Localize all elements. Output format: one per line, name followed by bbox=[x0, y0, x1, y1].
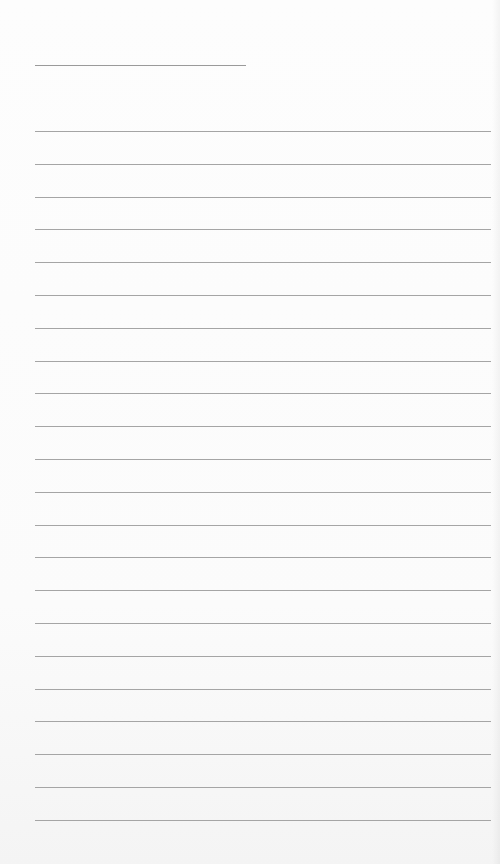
header-title-line bbox=[35, 65, 246, 66]
ruled-line bbox=[35, 787, 491, 788]
ruled-line bbox=[35, 295, 491, 296]
ruled-line bbox=[35, 426, 491, 427]
ruled-line bbox=[35, 656, 491, 657]
ruled-line bbox=[35, 525, 491, 526]
ruled-line bbox=[35, 623, 491, 624]
ruled-line bbox=[35, 229, 491, 230]
ruled-line bbox=[35, 262, 491, 263]
page-edge-shadow bbox=[492, 0, 500, 864]
ruled-line bbox=[35, 197, 491, 198]
ruled-line bbox=[35, 393, 491, 394]
ruled-line bbox=[35, 164, 491, 165]
ruled-line bbox=[35, 459, 491, 460]
ruled-line bbox=[35, 590, 491, 591]
ruled-line bbox=[35, 820, 491, 821]
ruled-line bbox=[35, 721, 491, 722]
ruled-line bbox=[35, 689, 491, 690]
ruled-line bbox=[35, 557, 491, 558]
ruled-line bbox=[35, 754, 491, 755]
ruled-line bbox=[35, 361, 491, 362]
ruled-line bbox=[35, 131, 491, 132]
ruled-line bbox=[35, 492, 491, 493]
ruled-line bbox=[35, 328, 491, 329]
lined-paper-page bbox=[0, 0, 500, 864]
